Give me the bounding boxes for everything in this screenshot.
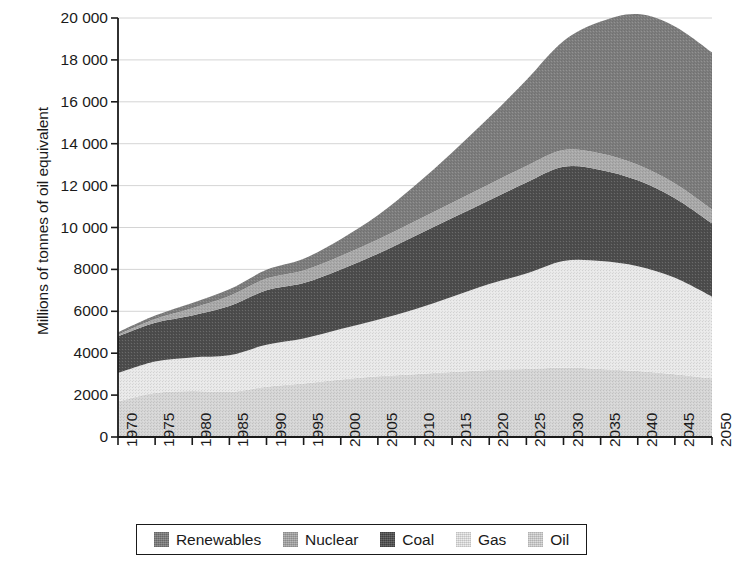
x-axis-tick-label: 2050 [718, 413, 734, 447]
x-axis-tick-label: 2045 [681, 413, 697, 447]
legend-label: Renewables [176, 532, 261, 548]
legend-label: Nuclear [305, 532, 358, 548]
x-axis-tick-label: 2030 [570, 413, 586, 447]
x-axis-tick-label: 2020 [495, 413, 511, 447]
legend-item[interactable]: Gas [456, 532, 506, 548]
x-axis-tick-label: 2040 [644, 413, 660, 447]
x-axis-tick-label: 2010 [421, 413, 437, 447]
legend-label: Oil [550, 532, 569, 548]
x-axis-tick-label: 1990 [273, 413, 289, 447]
legend-swatch-icon [380, 532, 395, 547]
legend-label: Gas [478, 532, 506, 548]
x-axis-tick-label: 2015 [458, 413, 474, 447]
legend-swatch-icon [528, 532, 543, 547]
x-axis-tick-label: 1985 [235, 413, 251, 447]
legend-swatch-icon [456, 532, 471, 547]
legend-label: Coal [402, 532, 434, 548]
x-axis-tick-label: 2035 [607, 413, 623, 447]
x-axis-tick-label: 1970 [124, 413, 140, 447]
x-axis-tick-label: 1980 [198, 413, 214, 447]
legend-swatch-icon [154, 532, 169, 547]
legend-item[interactable]: Nuclear [283, 532, 358, 548]
legend-item[interactable]: Coal [380, 532, 434, 548]
legend-item[interactable]: Renewables [154, 532, 261, 548]
x-axis-tick-label: 1995 [310, 413, 326, 447]
x-axis-tick-label: 1975 [161, 413, 177, 447]
legend-swatch-icon [283, 532, 298, 547]
x-axis-tick-label: 2025 [532, 413, 548, 447]
x-axis-tick-label: 2005 [384, 413, 400, 447]
x-axis-tick-label: 2000 [347, 413, 363, 447]
chart-legend: RenewablesNuclearCoalGasOil [136, 524, 587, 555]
legend-item[interactable]: Oil [528, 532, 569, 548]
